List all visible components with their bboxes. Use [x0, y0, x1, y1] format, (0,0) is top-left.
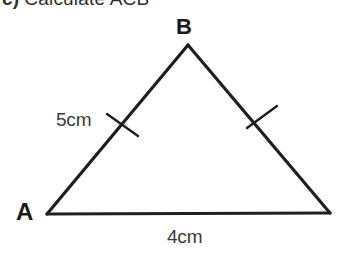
side-length-label-ac: 4cm	[167, 227, 202, 247]
triangle-side-ac	[47, 213, 330, 214]
side-length-label-ab: 5cm	[56, 110, 91, 130]
tick-mark-ab-icon	[107, 114, 138, 136]
vertex-label-b: B	[176, 16, 192, 38]
tick-mark-bc-icon	[247, 106, 277, 128]
triangle-side-bc	[188, 45, 330, 213]
worksheet-page: c)Calculate ACB B A 5cm 4cm	[0, 0, 344, 265]
vertex-label-a: A	[16, 201, 33, 223]
